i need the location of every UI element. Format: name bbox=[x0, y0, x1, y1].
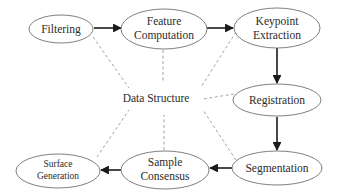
node-segmentation: Segmentation bbox=[232, 151, 322, 185]
ds-link-keypoint bbox=[201, 32, 236, 87]
node-filtering: Filtering bbox=[29, 15, 93, 43]
pipeline-diagram: Filtering Feature Computation Keypoint E… bbox=[0, 0, 339, 193]
node-keypoint-extraction: Keypoint Extraction bbox=[234, 8, 320, 48]
node-label: Segmentation bbox=[245, 162, 308, 175]
node-sample-consensus: Sample Consensus bbox=[121, 151, 209, 189]
ds-link-registration bbox=[203, 94, 234, 99]
node-label-line1: Sample bbox=[148, 156, 183, 169]
node-surface-generation: Surface Generation bbox=[16, 154, 100, 188]
node-label: Registration bbox=[249, 94, 305, 107]
node-feature-computation: Feature Computation bbox=[121, 9, 207, 49]
ds-link-surface bbox=[97, 110, 129, 157]
node-label-line2: Consensus bbox=[140, 170, 190, 182]
node-label-line1: Keypoint bbox=[256, 15, 300, 28]
ds-link-filtering bbox=[93, 37, 129, 88]
node-label-line2: Generation bbox=[37, 171, 79, 181]
node-label-line1: Feature bbox=[147, 15, 181, 27]
node-label-line1: Surface bbox=[43, 159, 72, 169]
data-structure-label: Data Structure bbox=[123, 92, 190, 104]
node-label: Filtering bbox=[41, 23, 81, 36]
ds-link-segmentation bbox=[203, 110, 236, 160]
node-label-line2: Computation bbox=[134, 29, 194, 42]
node-registration: Registration bbox=[233, 84, 321, 116]
node-label-line2: Extraction bbox=[253, 29, 301, 41]
